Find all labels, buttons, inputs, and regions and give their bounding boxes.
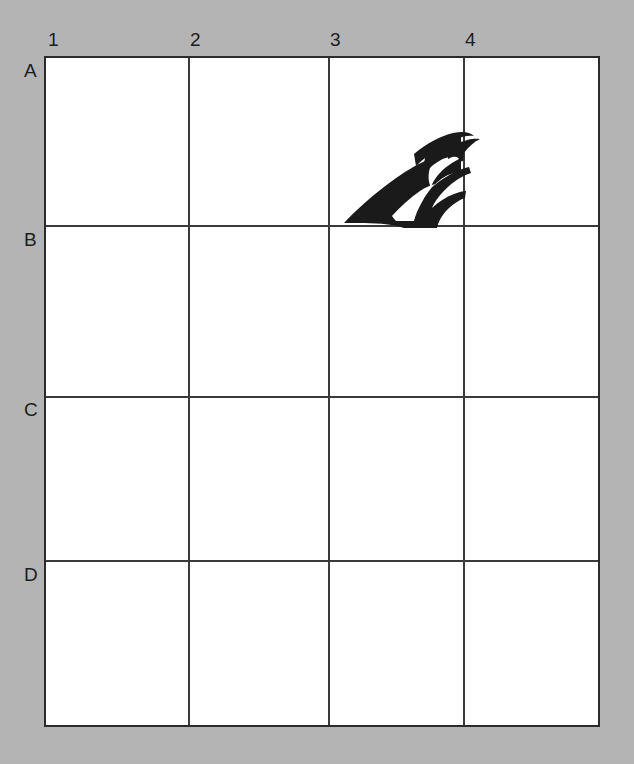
grid-line-horizontal-b	[46, 225, 598, 227]
column-label-4: 4	[465, 30, 476, 49]
image-canvas: 1 2 3 4 A B C D	[0, 0, 634, 764]
column-label-2: 2	[190, 30, 201, 49]
grid-line-horizontal-d	[46, 560, 598, 562]
row-label-d: D	[24, 565, 38, 584]
column-label-3: 3	[330, 30, 341, 49]
grid-line-vertical-2	[188, 58, 190, 725]
column-label-1: 1	[48, 30, 59, 49]
row-label-b: B	[24, 230, 37, 249]
grid-line-vertical-4	[463, 58, 465, 725]
row-label-a: A	[24, 61, 37, 80]
grid-plate	[44, 56, 600, 727]
grid-line-vertical-3	[328, 58, 330, 725]
grid-line-horizontal-c	[46, 396, 598, 398]
row-label-c: C	[24, 400, 38, 419]
